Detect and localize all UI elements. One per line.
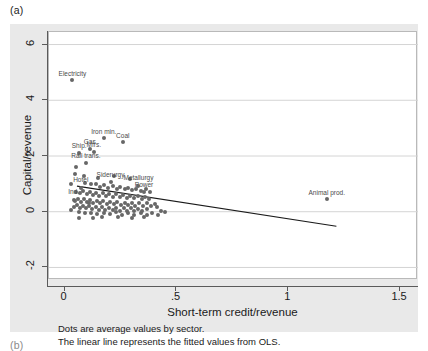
scatter-point: [144, 187, 148, 191]
scatter-point: [142, 215, 146, 219]
scatter-point: [126, 211, 130, 215]
y-tick-mark: [42, 155, 47, 156]
scatter-point: [70, 78, 74, 82]
ols-fit-line: [49, 32, 418, 280]
scatter-point: [69, 208, 73, 212]
scatter-point: [89, 182, 93, 186]
point-label: Hotel: [73, 176, 88, 183]
scatter-point: [163, 210, 167, 214]
point-label: Siderurgy: [97, 171, 125, 178]
y-tick-label: 6: [24, 33, 36, 53]
scatter-point: [114, 210, 118, 214]
x-tick-label: 1.5: [384, 290, 414, 302]
scatter-point: [91, 216, 95, 220]
x-tick-label: 1: [272, 290, 302, 302]
scatter-point: [145, 207, 149, 211]
scatter-point: [148, 190, 152, 194]
x-tick-label: 0: [49, 290, 79, 302]
point-label: Electricity: [59, 70, 87, 77]
point-label: Coal: [116, 132, 129, 139]
scatter-point: [77, 216, 81, 220]
point-label: Ind.: [68, 188, 79, 195]
scatter-point: [150, 211, 154, 215]
y-tick-label: -2: [24, 255, 36, 275]
scatter-point: [120, 213, 124, 217]
figure-caption: Dots are average values by sector. The l…: [58, 323, 280, 349]
graph-region: ElectricityIron min.CoalGasShip.Mfrs.Rai…: [10, 24, 418, 332]
panel-letter-a: (a): [10, 4, 23, 16]
scatter-point: [100, 215, 104, 219]
scatter-point: [77, 210, 81, 214]
x-axis-title: Short-term credit/revenue: [48, 306, 417, 318]
point-label: Mfrs.: [86, 141, 100, 148]
point-label: Ship.: [72, 142, 87, 149]
y-axis-title: Capital/revenue: [21, 100, 33, 210]
scatter-point: [83, 211, 87, 215]
y-tick-mark: [42, 44, 47, 45]
scatter-point: [95, 212, 99, 216]
scatter-point: [121, 140, 125, 144]
caption-line-2: The linear line represents the fitted va…: [58, 336, 280, 349]
panel-letter-b: (b): [10, 339, 23, 351]
y-axis-line: [47, 31, 48, 286]
scatter-point: [84, 161, 88, 165]
point-label: Iron min.: [91, 128, 116, 135]
scatter-point: [118, 185, 122, 189]
x-tick-label: .5: [160, 290, 190, 302]
point-label: Power: [135, 181, 153, 188]
scatter-point: [87, 201, 91, 205]
scatter-point: [74, 165, 78, 169]
scatter-point: [89, 211, 93, 215]
y-tick-mark: [42, 266, 47, 267]
scatter-point: [116, 215, 120, 219]
y-tick-mark: [42, 211, 47, 212]
scatter-point: [139, 189, 143, 193]
y-tick-mark: [42, 99, 47, 100]
point-label: Animal prod.: [309, 189, 346, 196]
scatter-point: [108, 212, 112, 216]
x-axis-line: [47, 286, 418, 287]
scatter-point: [325, 197, 329, 201]
caption-line-1: Dots are average values by sector.: [58, 323, 280, 336]
plot-inner: ElectricityIron min.CoalGasShip.Mfrs.Rai…: [49, 32, 416, 278]
scatter-point: [156, 213, 160, 217]
plot-region: ElectricityIron min.CoalGasShip.Mfrs.Rai…: [48, 31, 417, 279]
scatter-point: [130, 216, 134, 220]
point-label: Rail trans.: [71, 152, 100, 159]
scatter-point: [102, 136, 106, 140]
